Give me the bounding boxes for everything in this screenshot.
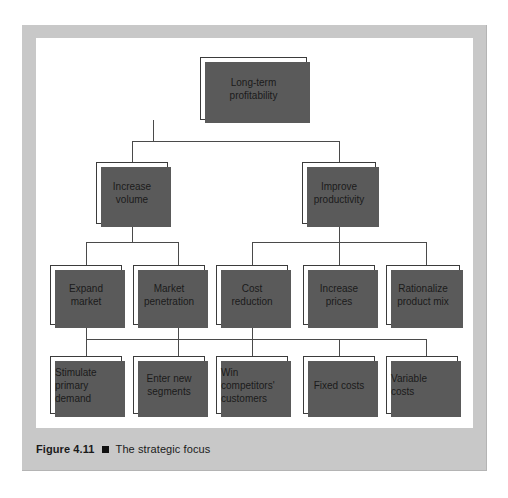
connector-right-drop-1 [252,242,253,265]
node-rationalize-product-mix[interactable]: Rationalize product mix [386,265,460,325]
node-stimulate-primary-demand[interactable]: Stimulate primary demand [50,356,122,414]
node-variable-costs[interactable]: Variable costs [386,356,458,414]
node-cost-reduction[interactable]: Cost reduction [216,265,288,325]
node-increase-volume[interactable]: Increase volume [96,162,168,224]
node-label: Improve productivity [314,180,365,206]
connector-level1-bar [132,141,339,142]
node-long-term-profitability[interactable]: Long-term profitability [200,57,307,120]
connector-root-stem [153,120,154,141]
connector-left-drop-1 [86,242,87,265]
node-label: Enter new segments [146,372,191,398]
node-label: Rationalize product mix [397,282,449,308]
connector-lower-bar-mid [178,339,252,340]
figure-caption: Figure 4.11 The strategic focus [36,438,473,460]
figure-title: The strategic focus [116,443,211,455]
node-improve-productivity[interactable]: Improve productivity [302,162,376,224]
node-label: Long-term profitability [230,76,278,102]
node-label: Stimulate primary demand [55,366,117,405]
node-label: Win competitors' customers [221,366,283,405]
node-label: Increase volume [113,180,151,206]
connector-level2-drop-2 [339,141,340,162]
connector-left-bar [86,242,178,243]
connector-lower-drop-4 [339,339,340,356]
diagram-canvas: Long-term profitability Increase volume … [36,38,473,428]
node-win-competitors-customers[interactable]: Win competitors' customers [216,356,288,414]
figure-page: Long-term profitability Increase volume … [0,0,508,498]
node-label: Fixed costs [314,379,365,392]
node-increase-prices[interactable]: Increase prices [303,265,375,325]
black-square-bullet-icon [102,446,109,453]
node-label: Variable costs [391,372,453,398]
node-label: Expand market [69,282,103,308]
connector-lower-drop-5 [426,339,427,356]
connector-right-drop-2 [339,242,340,265]
connector-expand-drop [86,339,87,356]
connector-left-drop-2 [178,242,179,265]
node-fixed-costs[interactable]: Fixed costs [303,356,375,414]
connector-level2-drop-1 [132,141,133,162]
connector-lower-bar-left [86,339,178,340]
node-market-penetration[interactable]: Market penetration [133,265,205,325]
figure-number: Figure 4.11 [36,443,95,455]
connector-right-drop-3 [426,242,427,265]
connector-cost-drop [252,339,253,356]
node-enter-new-segments[interactable]: Enter new segments [133,356,205,414]
node-label: Cost reduction [231,282,272,308]
node-label: Increase prices [320,282,358,308]
node-expand-market[interactable]: Expand market [50,265,122,325]
connector-penetration-drop [178,339,179,356]
node-label: Market penetration [144,282,194,308]
